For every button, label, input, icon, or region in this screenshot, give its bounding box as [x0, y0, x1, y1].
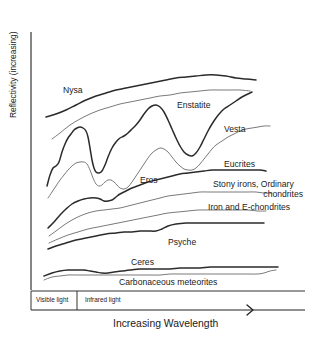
curve-label: Carbonaceous meteorites	[119, 278, 217, 288]
curve-label: Nysa	[63, 86, 83, 96]
band-label-infrared-light: Infrared light	[85, 296, 121, 303]
spectrum-curve	[52, 90, 250, 139]
curve-label: Eucrites	[224, 160, 255, 170]
spectrum-curve	[46, 75, 256, 117]
spectra-curves	[44, 75, 278, 280]
y-axis-title: Reflectivity (increasing)	[8, 31, 18, 118]
curve-label: Eros	[140, 176, 158, 186]
x-axis-title: Increasing Wavelength	[113, 318, 218, 330]
band-label-visible-light: Visible light	[36, 296, 68, 303]
curve-label: Ceres	[131, 258, 154, 268]
spectrum-curve	[48, 223, 264, 249]
curve-label: Psyche	[168, 238, 196, 248]
curve-label: Iron and E-chondrites	[208, 203, 290, 213]
reflectance-spectra-figure: Reflectivity (increasing) NysaEnstatiteV…	[0, 0, 331, 338]
curve-label: Enstatite	[177, 101, 210, 111]
spectrum-curve	[47, 92, 252, 186]
curve-label: Vesta	[224, 125, 246, 135]
curve-label-line2: chondrites	[213, 190, 303, 200]
